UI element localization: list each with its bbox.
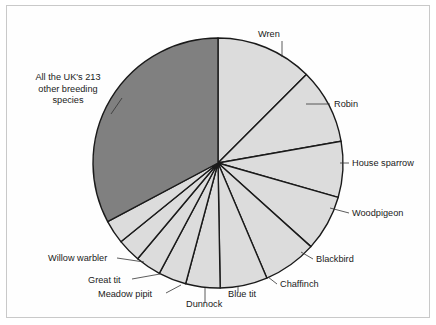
leader-line [268, 277, 277, 284]
slice-label: Great tit [88, 275, 121, 285]
pie-chart: WrenRobinHouse sparrowWoodpigeonBlackbir… [0, 0, 436, 325]
slice-label: Dunnock [186, 299, 223, 309]
slice-label: Blue tit [228, 289, 257, 299]
slice-label: House sparrow [352, 158, 414, 168]
slice-label: All the UK's 213other breedingspecies [35, 72, 100, 105]
slice-label: Robin [334, 99, 358, 109]
pie-chart-svg: WrenRobinHouse sparrowWoodpigeonBlackbir… [0, 0, 436, 325]
slice-label: Blackbird [316, 254, 354, 264]
pie-slices-group [93, 38, 343, 288]
slice-label: Willow warbler [48, 253, 107, 263]
slice-label: Chaffinch [280, 279, 319, 289]
pie-chart-page: WrenRobinHouse sparrowWoodpigeonBlackbir… [0, 0, 436, 325]
slice-label-line: other breeding [38, 84, 97, 94]
slice-label-line: All the UK's 213 [35, 72, 100, 82]
slice-label: Meadow pipit [98, 289, 153, 299]
slice-label-line: species [52, 95, 84, 105]
slice-label: Wren [258, 29, 280, 39]
leader-line [166, 285, 181, 293]
slice-label: Woodpigeon [352, 208, 403, 218]
leader-line [132, 274, 160, 279]
